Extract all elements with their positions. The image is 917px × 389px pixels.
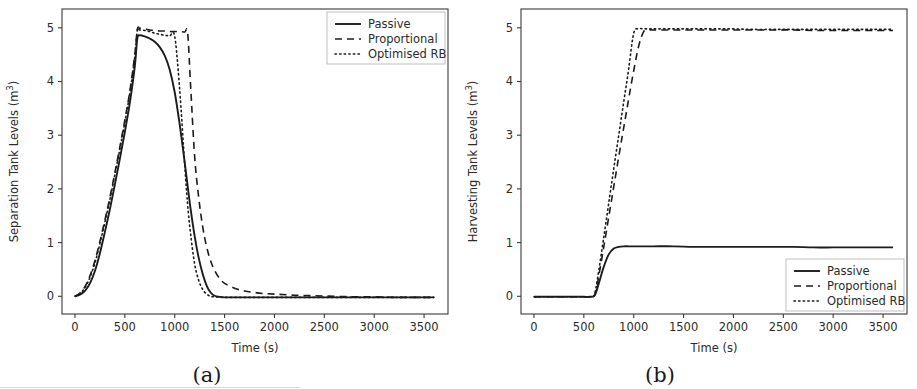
legend-label-proportional: Proportional xyxy=(368,32,438,46)
panel-a-separation-tank: 0500100015002000250030003500012345Time (… xyxy=(0,0,458,389)
y-axis-title: Separation Tank Levels (m3) xyxy=(5,81,21,243)
x-tick-label: 1500 xyxy=(669,320,698,334)
y-tick-label: 0 xyxy=(506,289,513,303)
x-tick-label: 3000 xyxy=(360,320,389,334)
x-tick-label: 3000 xyxy=(819,320,848,334)
y-tick-label: 3 xyxy=(506,128,513,142)
y-tick-label: 3 xyxy=(47,128,54,142)
x-tick-label: 3500 xyxy=(409,320,438,334)
x-tick-label: 3500 xyxy=(868,320,897,334)
legend-label-passive: Passive xyxy=(368,17,411,31)
x-tick-label: 2000 xyxy=(719,320,748,334)
x-tick-label: 1000 xyxy=(160,320,189,334)
x-tick-label: 0 xyxy=(530,320,537,334)
figure-two-panel-tank-levels: 0500100015002000250030003500012345Time (… xyxy=(0,0,917,389)
x-tick-label: 1000 xyxy=(619,320,648,334)
panel-a-caption: (a) xyxy=(0,363,436,387)
x-axis-title: Time (s) xyxy=(231,341,279,355)
y-tick-label: 1 xyxy=(506,236,513,250)
x-tick-label: 1500 xyxy=(210,320,239,334)
series-line-optimised-rb xyxy=(534,29,893,297)
y-tick-label: 5 xyxy=(47,21,54,35)
x-axis-title: Time (s) xyxy=(690,341,738,355)
legend-label-optimised-rb: Optimised RB xyxy=(368,47,446,61)
y-tick-label: 4 xyxy=(47,74,54,88)
legend-label-optimised-rb: Optimised RB xyxy=(827,294,905,308)
y-tick-label: 4 xyxy=(506,74,513,88)
legend-label-proportional: Proportional xyxy=(827,279,897,293)
y-tick-label: 2 xyxy=(506,182,513,196)
x-tick-label: 500 xyxy=(114,320,136,334)
y-tick-label: 2 xyxy=(47,182,54,196)
chart-a-canvas: 0500100015002000250030003500012345Time (… xyxy=(0,0,458,355)
series-line-proportional xyxy=(534,30,893,297)
page-edge-artifact xyxy=(0,387,300,388)
chart-b-canvas: 0500100015002000250030003500012345Time (… xyxy=(459,0,917,355)
y-tick-label: 0 xyxy=(47,289,54,303)
series-line-optimised-rb xyxy=(75,28,434,297)
legend: PassiveProportionalOptimised RB xyxy=(327,12,446,64)
series-line-proportional xyxy=(75,27,434,297)
y-tick-label: 1 xyxy=(47,236,54,250)
legend-label-passive: Passive xyxy=(827,264,870,278)
x-tick-label: 2500 xyxy=(310,320,339,334)
x-tick-label: 2500 xyxy=(769,320,798,334)
panel-b-caption: (b) xyxy=(431,363,889,387)
y-axis-title: Harvesting Tank Levels (m3) xyxy=(464,81,480,243)
x-tick-label: 500 xyxy=(573,320,595,334)
legend: PassiveProportionalOptimised RB xyxy=(786,259,905,311)
x-tick-label: 2000 xyxy=(260,320,289,334)
panel-b-harvesting-tank: 0500100015002000250030003500012345Time (… xyxy=(459,0,917,389)
series-line-passive xyxy=(75,35,434,297)
x-tick-label: 0 xyxy=(71,320,78,334)
y-tick-label: 5 xyxy=(506,21,513,35)
